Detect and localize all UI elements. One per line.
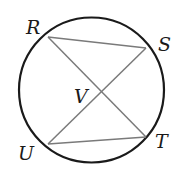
chord-RS (48, 37, 146, 48)
diagram-canvas: RSTUV (0, 0, 186, 176)
chord-UT (48, 137, 146, 144)
circle-chords-diagram: RSTUV (0, 0, 186, 176)
point-label-r: R (25, 16, 40, 38)
point-label-u: U (18, 142, 35, 164)
point-label-t: T (155, 130, 169, 152)
chords-group (48, 37, 146, 144)
point-label-s: S (158, 33, 171, 55)
point-label-v: V (74, 85, 90, 107)
chord-US (48, 48, 146, 144)
chord-RT (48, 37, 146, 137)
